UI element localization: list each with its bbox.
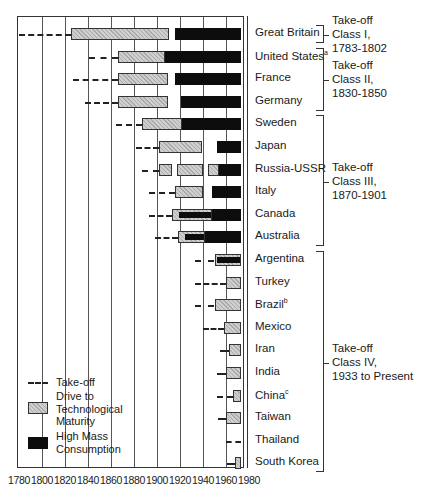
country-row: South Korea [0, 457, 423, 471]
takeoff-dash [195, 283, 226, 285]
legend-label: High MassConsumption [56, 430, 121, 455]
country-label: Taiwan [255, 410, 291, 422]
country-label: South Korea [255, 455, 319, 467]
legend-mass: High MassConsumption [24, 430, 144, 458]
drive-to-maturity-bar [175, 186, 203, 198]
takeoff-dash [227, 463, 235, 465]
takeoff-dash [89, 57, 118, 59]
mass-consumption-overlap [185, 234, 204, 240]
drive-to-maturity-bar [118, 96, 169, 108]
country-row: Mexico [0, 322, 423, 336]
mass-consumption-bar [175, 73, 241, 85]
drive-to-maturity-bar [118, 51, 165, 63]
drive-to-maturity-bar [215, 299, 241, 311]
country-label: Argentina [255, 252, 304, 264]
country-label: Turkey [255, 275, 290, 287]
country-label: Germany [255, 94, 302, 106]
takeoff-dash [226, 441, 241, 443]
mass-consumption-bar [219, 164, 241, 176]
takeoff-dash [217, 396, 233, 398]
takeoff-dash [195, 260, 215, 262]
class-bracket [316, 48, 324, 111]
legend-label: Drive toTechnologicalMaturity [56, 390, 146, 428]
class-bracket [316, 25, 324, 43]
dash-line-icon [28, 382, 48, 384]
class-label: Take-offClass IV,1933 to Present [332, 341, 413, 383]
country-row: Argentina [0, 254, 423, 268]
drive-to-maturity-bar [224, 322, 241, 334]
country-label: Australia [255, 229, 300, 241]
class-label: Take-offClass I,1783-1802 [332, 13, 387, 55]
takeoff-dash [19, 34, 71, 36]
x-tick-label: 1980 [234, 474, 264, 486]
takeoff-dash [85, 102, 118, 104]
country-label: Brazilb [255, 297, 288, 310]
country-row: Japan [0, 141, 423, 155]
mass-consumption-bar [181, 96, 241, 108]
legend: Take-off Drive toTechnologicalMaturity H… [24, 376, 144, 458]
mass-consumption-bar [165, 51, 241, 63]
stages-of-growth-chart: 1780180018201840186018801900192019401960… [0, 0, 423, 494]
solid-bar-icon [28, 437, 48, 449]
legend-takeoff: Take-off [24, 376, 144, 390]
stippled-bar-icon [28, 402, 48, 414]
class-bracket [316, 115, 324, 246]
country-row: Australia [0, 231, 423, 245]
class-label: Take-offClass III,1870-1901 [332, 160, 387, 202]
mass-consumption-bar [205, 231, 241, 243]
takeoff-dash [195, 305, 215, 307]
drive-to-maturity-bar [226, 367, 241, 379]
takeoff-dash [116, 124, 142, 126]
mass-consumption-overlap [217, 257, 240, 263]
country-label: Japan [255, 139, 286, 151]
takeoff-dash [218, 418, 226, 420]
country-label: Sweden [255, 116, 297, 128]
takeoff-dash [149, 192, 175, 194]
mass-consumption-bar [182, 118, 241, 130]
country-label: Mexico [255, 320, 291, 332]
drive-to-maturity-bar [71, 28, 169, 40]
country-label: Great Britain [255, 26, 320, 38]
drive-to-maturity-bar [118, 73, 169, 85]
takeoff-dash [136, 147, 159, 149]
drive-to-maturity-bar [142, 118, 182, 130]
country-row: Canada [0, 209, 423, 223]
mass-consumption-overlap [179, 212, 212, 218]
drive-to-maturity-bar [235, 457, 241, 469]
drive-to-maturity-bar [159, 164, 172, 176]
takeoff-dash [203, 328, 224, 330]
drive-to-maturity-bar [226, 412, 241, 424]
mass-consumption-bar [212, 186, 241, 198]
country-label: Thailand [255, 433, 299, 445]
mass-consumption-bar [217, 141, 241, 153]
takeoff-dash [217, 373, 226, 375]
takeoff-dash [73, 79, 118, 81]
legend-label: Take-off [56, 376, 95, 389]
country-label: Iran [255, 342, 275, 354]
mass-consumption-bar [175, 28, 241, 40]
country-label: India [255, 365, 280, 377]
country-label: Chinac [255, 388, 289, 401]
drive-to-maturity-bar [208, 164, 220, 176]
class-label: Take-offClass II,1830-1850 [332, 58, 387, 100]
takeoff-dash [220, 350, 229, 352]
drive-to-maturity-bar [226, 277, 241, 289]
legend-drive: Drive toTechnologicalMaturity [24, 390, 144, 430]
country-row: Sweden [0, 118, 423, 132]
country-label: France [255, 71, 291, 83]
country-row: Turkey [0, 277, 423, 291]
mass-consumption-bar [212, 209, 241, 221]
takeoff-dash [155, 237, 178, 239]
country-row: Brazilb [0, 299, 423, 313]
takeoff-dash [149, 215, 172, 217]
country-label: Canada [255, 207, 295, 219]
country-label: Italy [255, 184, 276, 196]
drive-to-maturity-bar [177, 164, 203, 176]
drive-to-maturity-bar [233, 390, 241, 402]
drive-to-maturity-bar [229, 344, 241, 356]
class-bracket [316, 251, 324, 472]
takeoff-dash [142, 170, 159, 172]
drive-to-maturity-bar [159, 141, 202, 153]
